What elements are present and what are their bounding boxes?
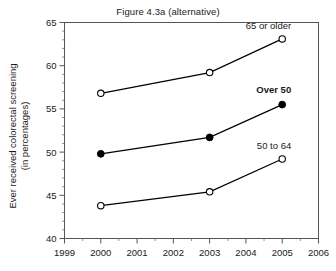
chart-plot: 404550556065 199920002001200220032004200…: [0, 0, 336, 271]
y-tick-label: 40: [46, 233, 57, 244]
series-lines: [101, 39, 282, 206]
data-point-open: [206, 69, 212, 75]
y-tick-label: 50: [46, 147, 57, 158]
series-markers: [97, 36, 285, 209]
data-point-filled: [279, 101, 286, 108]
y-axis-tick-labels: 404550556065: [46, 17, 57, 244]
series-annotation-label: 50 to 64: [257, 140, 291, 151]
y-tick-label: 60: [46, 60, 57, 71]
y-tick-label: 55: [46, 103, 57, 114]
data-point-open: [98, 202, 104, 208]
data-point-open: [206, 189, 212, 195]
series-annotation-label: Over 50: [256, 84, 291, 95]
data-point-filled: [206, 134, 213, 141]
x-tick-label: 1999: [54, 247, 75, 258]
x-tick-label: 2002: [163, 247, 184, 258]
series-line: [101, 159, 282, 206]
x-axis-tick-labels: 19992000200120022003200420052006: [54, 247, 329, 258]
x-tick-label: 2006: [308, 247, 329, 258]
x-tick-label: 2005: [272, 247, 293, 258]
data-point-open: [98, 90, 104, 96]
x-tick-label: 2003: [199, 247, 220, 258]
data-point-open: [279, 36, 285, 42]
y-tick-label: 45: [46, 190, 57, 201]
y-axis-major-ticks: [60, 23, 65, 239]
series-annotation-label: 65 or older: [246, 20, 291, 31]
x-tick-label: 2004: [235, 247, 256, 258]
figure-container: Figure 4.3a (alternative) Ever received …: [0, 0, 336, 271]
x-tick-label: 2001: [127, 247, 148, 258]
data-point-open: [279, 156, 285, 162]
series-line: [101, 39, 282, 93]
data-point-filled: [97, 150, 104, 157]
x-tick-label: 2000: [90, 247, 111, 258]
y-tick-label: 65: [46, 17, 57, 28]
series-line: [101, 105, 282, 154]
